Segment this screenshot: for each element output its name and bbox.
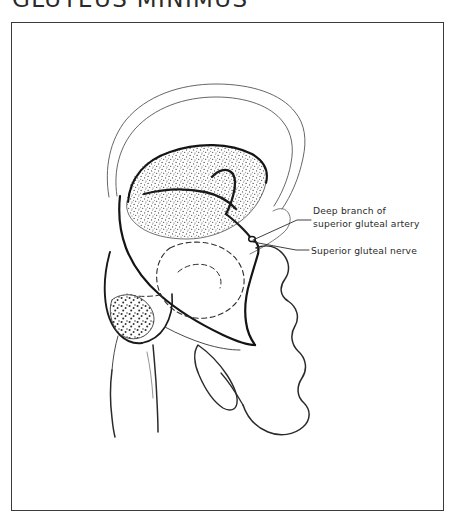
label-artery-line1: Deep branch of <box>313 205 420 218</box>
page-title: GLUTEUS MINIMUS <box>12 0 249 12</box>
label-artery-line2: superior gluteal artery <box>313 218 420 231</box>
plate-frame <box>11 22 444 511</box>
label-deep-branch-superior-gluteal-artery: Deep branch of superior gluteal artery <box>313 205 420 230</box>
illustration-plate: GLUTEUS MINIMUS <box>0 0 457 523</box>
label-superior-gluteal-nerve: Superior gluteal nerve <box>311 245 417 256</box>
